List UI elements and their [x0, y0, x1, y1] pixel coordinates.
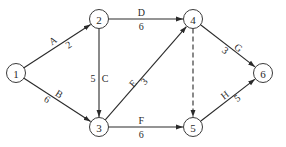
node-6: 6 — [254, 64, 273, 83]
node-5: 5 — [184, 118, 203, 137]
activity-label: F — [139, 115, 145, 126]
duration-label: 5 — [232, 92, 243, 104]
node-label: 6 — [260, 68, 266, 80]
duration-label: 6 — [139, 21, 144, 32]
edge-line — [201, 79, 256, 121]
duration-label: 5 — [91, 73, 96, 84]
node-label: 4 — [190, 14, 196, 26]
edge-h-5-6 — [201, 79, 256, 121]
node-label: 3 — [96, 122, 102, 134]
duration-label: 6 — [42, 93, 52, 105]
network-diagram: A2B6C5D6E3F6G3H5 123456 — [0, 0, 286, 147]
duration-label: 2 — [63, 39, 73, 51]
activity-label: G — [232, 41, 244, 54]
edge-e-3-4 — [105, 27, 186, 120]
duration-label: 6 — [139, 129, 144, 140]
edge-b-1-3 — [24, 78, 91, 121]
edge-line — [24, 78, 91, 121]
node-label: 5 — [190, 122, 196, 134]
node-1: 1 — [7, 64, 26, 83]
edge-a-1-2 — [24, 24, 91, 67]
node-label: 1 — [13, 68, 19, 80]
node-label: 2 — [96, 14, 102, 26]
node-3: 3 — [90, 118, 109, 137]
duration-label: 3 — [220, 44, 231, 56]
node-2: 2 — [90, 10, 109, 29]
edge-line — [105, 27, 186, 120]
activity-label: D — [138, 7, 145, 18]
activity-label: A — [47, 34, 60, 48]
edge-line — [24, 24, 91, 67]
node-4: 4 — [184, 10, 203, 29]
activity-label: C — [102, 73, 109, 84]
duration-label: 3 — [138, 76, 150, 87]
